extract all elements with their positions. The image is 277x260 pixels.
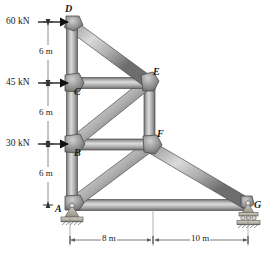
load-label-60kN: 60 kN <box>6 16 30 26</box>
node-label-E: E <box>153 66 160 77</box>
node-label-C: C <box>74 86 81 97</box>
node-label-A: A <box>55 203 62 214</box>
node-label-G: G <box>254 199 261 210</box>
member-A-G <box>72 200 248 211</box>
dimension-label-BA: 6 m <box>38 168 54 178</box>
truss-diagram-figure: D C B A E F G 60 kN 45 kN 30 kN 6 m 6 m … <box>0 0 277 260</box>
truss-drawing-canvas <box>0 0 277 260</box>
dimension-label-DC: 6 m <box>38 46 54 56</box>
node-label-F: F <box>157 128 164 139</box>
node-label-B: B <box>74 147 81 158</box>
member-D-A <box>67 20 78 206</box>
dimension-label-8m: 8 m <box>101 233 117 243</box>
horizontal-dimension-chain <box>70 208 248 246</box>
load-label-45kN: 45 kN <box>6 77 30 87</box>
truss-members <box>64 17 252 211</box>
node-label-D: D <box>65 3 72 14</box>
load-label-30kN: 30 kN <box>6 138 30 148</box>
dimension-label-CB: 6 m <box>38 107 54 117</box>
dimension-label-10m: 10 m <box>190 233 210 243</box>
